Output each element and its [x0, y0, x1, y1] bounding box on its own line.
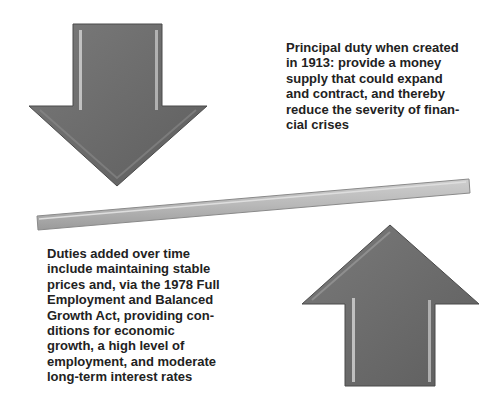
text-line: employment, and moderate: [47, 354, 220, 369]
text-line: cial crises: [286, 117, 459, 132]
text-line: prices and, via the 1978 Full: [47, 277, 220, 292]
text-line: long-term interest rates: [47, 369, 220, 384]
balance-bar: [37, 179, 470, 230]
down-arrow-icon: [29, 24, 207, 186]
text-line: include maintaining stable: [47, 261, 220, 276]
text-line: Duties added over time: [47, 246, 220, 261]
text-line: Growth Act, providing con-: [47, 308, 220, 323]
up-arrow-icon: [302, 225, 479, 386]
text-line: Employment and Balanced: [47, 292, 220, 307]
text-line: ditions for economic: [47, 323, 220, 338]
text-line: and contract, and thereby: [286, 86, 459, 101]
text-line: in 1913: provide a money: [286, 55, 459, 70]
text-line: growth, a high level of: [47, 338, 220, 353]
text-line: supply that could expand: [286, 71, 459, 86]
principal-duty-text: Principal duty when created in 1913: pro…: [286, 40, 459, 132]
added-duties-text: Duties added over time include maintaini…: [47, 246, 220, 385]
text-line: reduce the severity of finan-: [286, 102, 459, 117]
text-line: Principal duty when created: [286, 40, 459, 55]
